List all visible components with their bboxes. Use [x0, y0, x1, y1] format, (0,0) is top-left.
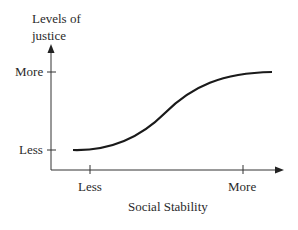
- y-tick-label-less: Less: [19, 143, 43, 157]
- y-tick-label-more: More: [15, 65, 43, 79]
- x-tick-label-more: More: [228, 180, 256, 194]
- x-axis-arrow-icon: [275, 167, 284, 174]
- x-tick-label-less: Less: [78, 180, 102, 194]
- sigmoid-curve: [73, 72, 272, 150]
- y-axis-arrow-icon: [48, 44, 55, 53]
- y-axis-label-line2: justice: [32, 29, 66, 43]
- x-axis-label: Social Stability: [128, 200, 208, 214]
- y-axis-label-line1: Levels of: [32, 12, 81, 26]
